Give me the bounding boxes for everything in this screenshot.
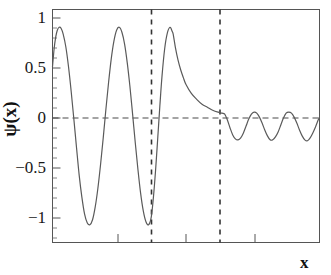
wavefunction-plot	[0, 0, 331, 275]
plot-frame	[53, 10, 320, 243]
figure-container: 1 0.5 0 −0.5 −1 ψ(x) x	[0, 0, 331, 275]
y-tick-label-1: 1	[16, 9, 46, 26]
y-tick-label-0_5: 0.5	[8, 59, 46, 76]
x-axis-label: x	[300, 253, 309, 273]
y-axis-label: ψ(x)	[0, 89, 21, 149]
y-tick-label-minus-1: −1	[8, 209, 46, 226]
y-tick-label-minus-0_5: −0.5	[0, 159, 46, 176]
